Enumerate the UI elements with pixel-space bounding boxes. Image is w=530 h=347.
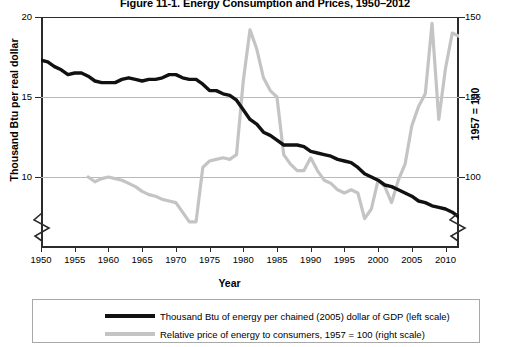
axis-break-left [33, 205, 51, 247]
y-tick-right-150: 150 [465, 11, 481, 22]
x-tickmark-2010 [446, 247, 447, 252]
legend-label-energy-intensity: Thousand Btu of energy per chained (2005… [160, 311, 450, 322]
x-tickmark-1975 [210, 247, 211, 252]
y-tick-left-20: 20 [2, 11, 32, 22]
x-axis-line [41, 246, 459, 248]
x-tickmark-1950 [41, 247, 42, 252]
legend: Thousand Btu of energy per chained (2005… [32, 299, 480, 343]
figure-container: Figure 11-1. Energy Consumption and Pric… [0, 0, 530, 347]
x-tickmark-2000 [378, 247, 379, 252]
x-tickmark-1960 [108, 247, 109, 252]
legend-swatch-black [105, 314, 155, 318]
plot-area [41, 17, 459, 247]
x-tickmark-1980 [243, 247, 244, 252]
y-axis-left-label: Thousand Btu per real dollar [8, 30, 20, 190]
x-tickmark-1995 [344, 247, 345, 252]
y-tickmark-right-125 [459, 97, 465, 98]
chart-title: Figure 11-1. Energy Consumption and Pric… [0, 0, 530, 9]
x-tickmark-2005 [412, 247, 413, 252]
x-axis-label: Year [0, 277, 459, 289]
legend-item-energy-intensity: Thousand Btu of energy per chained (2005… [105, 309, 450, 323]
axis-break-right [449, 205, 467, 247]
series-lines [41, 17, 459, 247]
x-tickmark-1965 [142, 247, 143, 252]
x-tickmark-1955 [75, 247, 76, 252]
x-tickmark-1990 [311, 247, 312, 252]
y-tickmark-right-100 [459, 177, 465, 178]
legend-swatch-gray [105, 332, 155, 336]
x-tick-2010: 2010 [426, 254, 466, 265]
y-axis-right-label: 1957 = 100 [469, 59, 481, 169]
legend-item-energy-price: Relative price of energy to consumers, 1… [105, 327, 425, 341]
legend-label-energy-price: Relative price of energy to consumers, 1… [160, 329, 425, 340]
series-line-energy-intensity [41, 60, 459, 217]
y-tickmark-right-150 [459, 17, 465, 18]
y-tick-right-100: 100 [465, 171, 481, 182]
x-tickmark-1985 [277, 247, 278, 252]
x-tickmark-1970 [176, 247, 177, 252]
